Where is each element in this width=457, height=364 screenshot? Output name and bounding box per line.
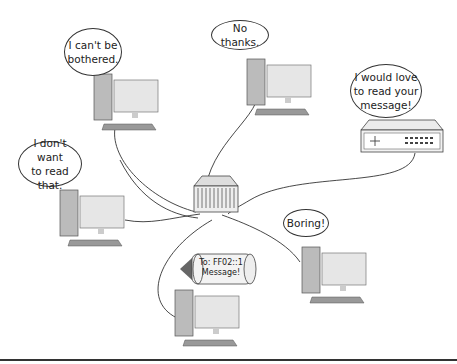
speech-bubble-router: I would love to read your message! [350, 64, 422, 118]
network-diagram: To: FF02::1 Message! I can't be bothered… [0, 0, 457, 364]
speech-bubble-left: I don't want to read that. [18, 141, 82, 187]
computer-top-left-icon [92, 72, 162, 134]
speech-bubble-right: Boring! [283, 209, 329, 237]
bottom-rule [0, 359, 457, 361]
message-capsule-label: To: FF02::1 Message! [196, 258, 246, 278]
computer-bottom-sender-icon [173, 288, 243, 350]
speech-bubble-top-left: I can't be bothered. [64, 28, 122, 76]
computer-left-icon [58, 188, 128, 250]
speech-bubble-top-center: No thanks. [211, 20, 269, 50]
router-icon [355, 118, 450, 158]
hub-icon [186, 174, 246, 224]
computer-top-center-icon [245, 57, 315, 119]
computer-right-icon [300, 245, 370, 307]
